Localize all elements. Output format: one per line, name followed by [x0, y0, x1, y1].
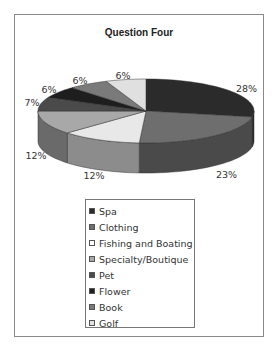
slice-label: 12%: [25, 150, 46, 161]
slice-label: 7%: [24, 97, 39, 108]
legend-label: Specialty/Boutique: [99, 254, 188, 265]
chart-legend: SpaClothingFishing and BoatingSpecialty/…: [85, 199, 195, 328]
legend-item: Spa: [89, 203, 194, 219]
slice-label: 12%: [83, 170, 104, 181]
legend-label: Golf: [99, 318, 118, 329]
legend-swatch-icon: [89, 272, 95, 278]
legend-swatch-icon: [89, 304, 95, 310]
slice-label: 6%: [41, 84, 56, 95]
legend-label: Clothing: [99, 222, 139, 233]
legend-item: Fishing and Boating: [89, 235, 194, 251]
legend-label: Pet: [99, 270, 114, 281]
slice-label: 23%: [216, 169, 237, 180]
slice-label: 6%: [115, 70, 130, 81]
legend-item: Clothing: [89, 219, 194, 235]
legend-label: Flower: [99, 286, 130, 297]
legend-swatch-icon: [89, 208, 95, 214]
legend-swatch-icon: [89, 320, 95, 326]
slice-label: 28%: [236, 83, 257, 94]
slice-label: 6%: [72, 75, 87, 86]
legend-item: Golf: [89, 315, 194, 331]
legend-item: Book: [89, 299, 194, 315]
legend-swatch-icon: [89, 256, 95, 262]
legend-label: Spa: [99, 206, 117, 217]
legend-item: Flower: [89, 283, 194, 299]
legend-label: Book: [99, 302, 123, 313]
legend-label: Fishing and Boating: [99, 238, 193, 249]
legend-swatch-icon: [89, 224, 95, 230]
legend-swatch-icon: [89, 240, 95, 246]
legend-swatch-icon: [89, 288, 95, 294]
legend-item: Pet: [89, 267, 194, 283]
legend-item: Specialty/Boutique: [89, 251, 194, 267]
